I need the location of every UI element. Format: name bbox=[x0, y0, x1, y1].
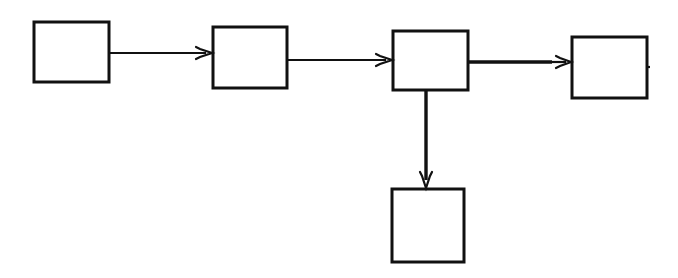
edge-node2-to-node3 bbox=[287, 54, 392, 66]
block-diagram bbox=[0, 0, 678, 278]
node-4 bbox=[572, 37, 647, 98]
node-2 bbox=[213, 27, 287, 88]
edge-node3-to-node5 bbox=[420, 90, 432, 188]
edge-node1-to-node2 bbox=[109, 47, 212, 59]
node-1 bbox=[34, 22, 109, 82]
node-5 bbox=[392, 189, 464, 262]
edge-node3-to-node4 bbox=[468, 56, 571, 68]
node-3 bbox=[393, 31, 468, 90]
